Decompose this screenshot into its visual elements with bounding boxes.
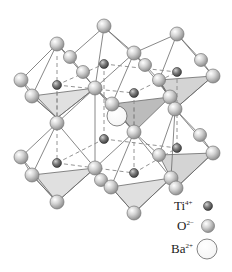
legend-ba-icon bbox=[197, 239, 217, 259]
legend-ti-icon bbox=[204, 202, 213, 211]
legend-label-o: O2− bbox=[177, 219, 194, 232]
perovskite-structure-diagram bbox=[0, 0, 232, 272]
legend-label-ba: Ba2+ bbox=[171, 242, 193, 255]
legend-symbols bbox=[197, 202, 217, 260]
octahedra-faces bbox=[32, 76, 213, 213]
legend-label-ti: Ti4+ bbox=[174, 199, 193, 212]
legend-o-icon bbox=[202, 220, 215, 233]
